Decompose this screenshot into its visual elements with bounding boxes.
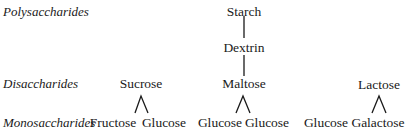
- lactose-fork: [372, 96, 386, 113]
- node-fructose: Fructose: [90, 116, 137, 130]
- node-glucose-maltose-2: Glucose: [245, 116, 289, 130]
- node-glucose-maltose-1: Glucose: [198, 116, 242, 130]
- node-dextrin: Dextrin: [223, 41, 264, 55]
- node-starch: Starch: [227, 5, 262, 19]
- carbohydrate-hierarchy-diagram: Polysaccharides Disaccharides Monosaccha…: [0, 0, 406, 135]
- node-maltose: Maltose: [222, 77, 266, 91]
- node-sucrose: Sucrose: [120, 77, 163, 91]
- maltose-fork: [236, 96, 250, 113]
- sucrose-fork: [135, 96, 148, 113]
- node-glucose-sucrose: Glucose: [142, 116, 186, 130]
- node-glucose-lactose: Glucose: [304, 116, 348, 130]
- node-lactose: Lactose: [358, 78, 400, 92]
- node-galactose: Galactose: [351, 116, 404, 130]
